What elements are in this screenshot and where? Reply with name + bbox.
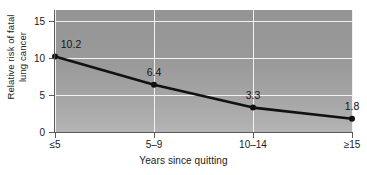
x-tick-mark — [154, 133, 155, 138]
x-tick-mark — [352, 133, 353, 138]
data-point-value-label: 1.8 — [345, 100, 360, 112]
data-point-value-label: 6.4 — [147, 66, 162, 78]
gridline-vertical — [352, 10, 353, 132]
x-tick-mark — [253, 133, 254, 138]
data-point-marker — [250, 105, 256, 111]
line-chart: Relative risk of fatal lung cancer 05101… — [0, 0, 367, 175]
x-tick-label: ≥15 — [322, 139, 367, 150]
y-tick-label: 5 — [23, 90, 45, 101]
x-axis-line — [54, 132, 353, 133]
y-tick-mark — [49, 21, 55, 22]
y-tick-mark — [49, 95, 55, 96]
y-axis-line — [54, 10, 55, 133]
y-tick-label: 0 — [23, 127, 45, 138]
y-tick-label: 10 — [23, 53, 45, 64]
x-tick-label: 5–9 — [124, 139, 184, 150]
data-point-marker — [349, 116, 355, 122]
x-tick-label: 10–14 — [223, 139, 283, 150]
data-point-value-label: 3.3 — [246, 89, 261, 101]
data-point-marker — [151, 82, 157, 88]
plot-area — [55, 10, 352, 132]
series-polyline — [55, 57, 352, 119]
x-tick-mark — [55, 133, 56, 138]
data-point-value-label: 10.2 — [61, 38, 81, 50]
y-tick-mark — [49, 58, 55, 59]
y-tick-label: 15 — [23, 16, 45, 27]
x-tick-label: ≤5 — [25, 139, 85, 150]
data-series-line — [55, 10, 352, 132]
x-axis-title: Years since quitting — [0, 155, 367, 166]
